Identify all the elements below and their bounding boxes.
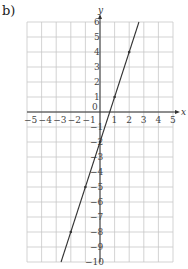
x-tick-label: 4 [155, 115, 161, 125]
y-tick-label: 6 [94, 17, 100, 27]
y-tick-label: 2 [94, 77, 100, 87]
x-tick-label: 1 [112, 115, 118, 125]
y-tick-label: −10 [85, 257, 104, 267]
y-tick-label: −1 [90, 122, 103, 132]
y-tick-label: 1 [94, 92, 100, 102]
y-tick-label: −9 [90, 242, 104, 252]
x-tick-label: 2 [126, 115, 132, 125]
y-axis-label: y [97, 5, 104, 15]
y-tick-label: −4 [90, 167, 104, 177]
y-tick-label: 4 [94, 47, 100, 57]
x-tick-label: −4 [39, 115, 53, 125]
data-point [84, 186, 87, 189]
x-tick-label: −2 [68, 115, 81, 125]
data-point [113, 96, 116, 99]
y-tick-label: −6 [90, 197, 104, 207]
line-chart: xy−5−4−3−2−1012345654321−1−2−3−4−5−6−7−8… [0, 0, 188, 269]
data-point [70, 231, 73, 234]
y-tick-label: −7 [90, 212, 104, 222]
y-tick-label: −8 [90, 227, 104, 237]
y-tick-label: 5 [94, 32, 100, 42]
x-axis-label: x [181, 107, 186, 117]
x-tick-label: 3 [141, 115, 147, 125]
x-tick-label: 0 [92, 102, 98, 112]
x-tick-label: −5 [24, 115, 38, 125]
y-tick-label: −5 [90, 182, 104, 192]
x-tick-label: 5 [170, 115, 176, 125]
x-axis-arrow-icon [175, 110, 180, 114]
data-point [99, 141, 102, 144]
x-tick-label: −3 [53, 115, 67, 125]
y-tick-label: 3 [94, 62, 100, 72]
data-point [128, 51, 131, 54]
